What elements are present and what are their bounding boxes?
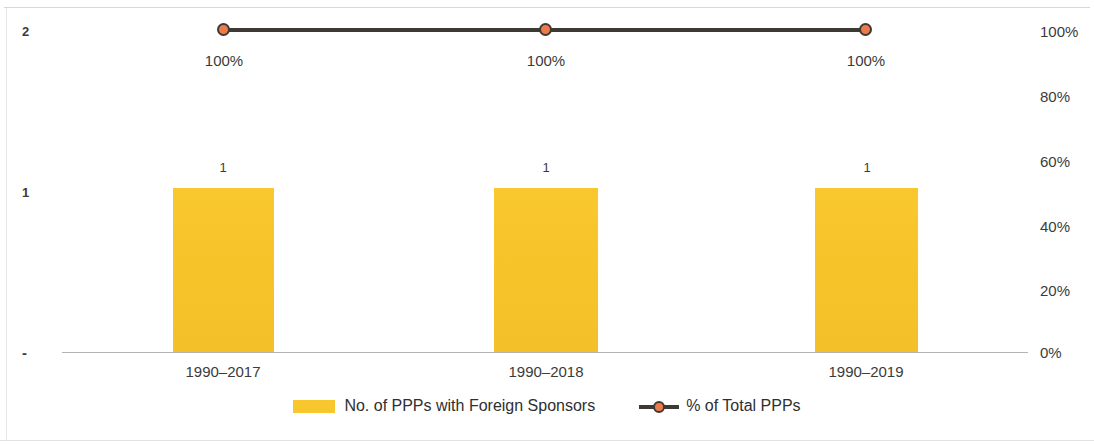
bar-value-label-1990-2017: 1 [183,161,263,174]
chart-figure: 2 1 - 100% 80% 60% 40% 20% 0% 1 1 1 100% [0,0,1094,445]
left-axis-tick-1: 1 [22,186,62,199]
line-value-label-1990-2017: 100% [184,53,264,68]
bar-fill [173,188,274,352]
plot-area: 2 1 - 100% 80% 60% 40% 20% 0% 1 1 1 100% [0,0,1094,445]
legend-item-foreign-sponsors: No. of PPPs with Foreign Sponsors [293,398,595,414]
line-segment-1 [224,28,546,32]
legend-item-percent-total: % of Total PPPs [639,398,800,414]
chart-legend: No. of PPPs with Foreign Sponsors % of T… [0,398,1094,414]
bar-1990-2018 [494,188,598,352]
line-value-label-1990-2019: 100% [826,53,906,68]
right-axis-tick-100: 100% [1040,24,1094,39]
bar-fill [494,188,598,352]
right-axis-tick-20: 20% [1040,283,1094,298]
right-axis-tick-80: 80% [1040,89,1094,104]
x-axis-label-1990-2019: 1990–2019 [786,364,946,379]
bar-value-label-1990-2019: 1 [827,161,907,174]
line-segment-2 [546,28,866,32]
line-marker-1990-2018 [539,23,552,36]
right-axis-tick-40: 40% [1040,219,1094,234]
bar-swatch-icon [293,400,335,413]
line-marker-1990-2019 [859,23,872,36]
legend-label-foreign-sponsors: No. of PPPs with Foreign Sponsors [344,398,595,414]
bar-1990-2019 [815,188,918,352]
left-axis-tick-0: - [22,345,27,360]
x-axis-line [62,352,1028,353]
line-marker-icon [639,400,679,413]
right-axis-tick-60: 60% [1040,154,1094,169]
right-axis-tick-0: 0% [1040,345,1094,360]
x-axis-label-1990-2017: 1990–2017 [143,364,303,379]
bar-value-label-1990-2018: 1 [506,161,586,174]
x-axis-label-1990-2018: 1990–2018 [466,364,626,379]
legend-label-percent-total: % of Total PPPs [686,398,800,414]
left-axis-tick-2: 2 [22,25,62,38]
line-value-label-1990-2018: 100% [506,53,586,68]
bar-fill [815,188,918,352]
line-marker-1990-2017 [217,23,230,36]
legend-line-dot [653,401,665,413]
bar-1990-2017 [173,188,274,352]
